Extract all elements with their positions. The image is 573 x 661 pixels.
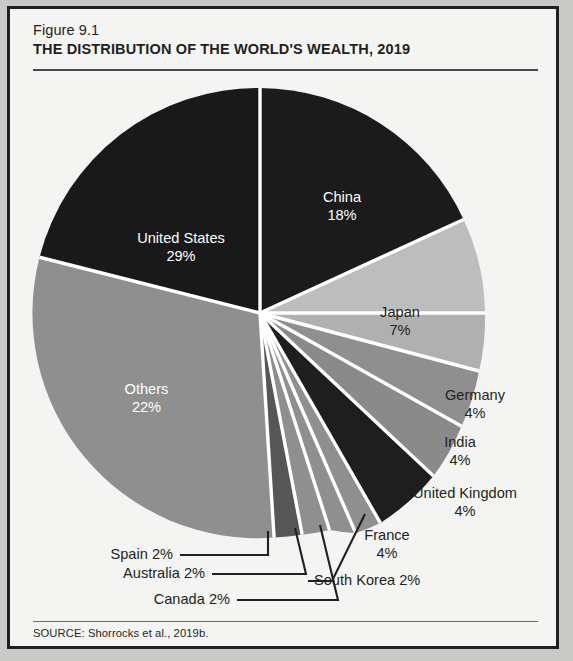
slice-label-india-pct: 4% [415, 452, 505, 470]
slice-label-australia: Australia 2% [70, 565, 205, 583]
slice-label-japan-pct: 7% [355, 322, 445, 340]
slice-label-spain-pct: 2% [152, 546, 173, 562]
slice-label-germany: Germany 4% [415, 387, 535, 423]
slice-label-south-korea-pct: 2% [399, 572, 420, 588]
slice-label-united-kingdom: United Kingdom 4% [395, 485, 535, 521]
slice-label-australia-name: Australia [123, 565, 180, 581]
slice-label-australia-pct: 2% [184, 565, 205, 581]
slice-label-others: Others 22% [94, 381, 199, 417]
slice-label-japan-name: Japan [355, 304, 445, 322]
slice-label-canada: Canada 2% [108, 591, 230, 609]
slice-label-canada-name: Canada [154, 591, 205, 607]
slice-label-south-korea: South Korea 2% [314, 572, 474, 590]
slice-label-united-kingdom-pct: 4% [395, 503, 535, 521]
pie-chart: United States 29% China 18% Japan 7% Ger… [10, 9, 556, 646]
slice-label-south-korea-name: South Korea [314, 572, 395, 588]
slice-label-germany-pct: 4% [415, 405, 535, 423]
slice-label-france: France 4% [342, 527, 432, 563]
slice-label-china: China 18% [297, 189, 387, 225]
slice-label-india: India 4% [415, 434, 505, 470]
source-divider [33, 621, 538, 622]
slice-label-united-states-pct: 29% [106, 248, 256, 266]
slice-label-china-pct: 18% [297, 207, 387, 225]
slice-label-india-name: India [415, 434, 505, 452]
slice-label-japan: Japan 7% [355, 304, 445, 340]
slice-label-others-pct: 22% [94, 399, 199, 417]
slice-label-canada-pct: 2% [209, 591, 230, 607]
slice-label-others-name: Others [94, 381, 199, 399]
slice-label-united-kingdom-name: United Kingdom [395, 485, 535, 503]
slice-label-united-states: United States 29% [106, 230, 256, 266]
slice-label-france-pct: 4% [342, 545, 432, 563]
slice-label-united-states-name: United States [106, 230, 256, 248]
figure-frame: Figure 9.1 THE DISTRIBUTION OF THE WORLD… [7, 6, 559, 649]
slice-label-china-name: China [297, 189, 387, 207]
source-note: SOURCE: Shorrocks et al., 2019b. [33, 627, 208, 639]
slice-label-germany-name: Germany [415, 387, 535, 405]
slice-label-spain-name: Spain [111, 546, 148, 562]
slice-label-france-name: France [342, 527, 432, 545]
slice-label-spain: Spain 2% [45, 546, 173, 564]
